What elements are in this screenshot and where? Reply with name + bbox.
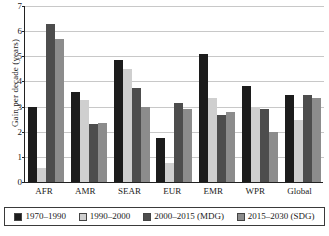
legend-label: 1970–1990 bbox=[25, 212, 66, 221]
bar bbox=[114, 60, 123, 182]
bar bbox=[55, 39, 64, 182]
bar-group-wpr bbox=[242, 6, 278, 182]
bar bbox=[37, 168, 46, 182]
grouped-bar-chart: Gain per decade (years) 01234567 AFRAMRS… bbox=[0, 0, 329, 236]
bar bbox=[303, 95, 312, 182]
bar bbox=[46, 24, 55, 182]
x-axis-tick-label: SEAR bbox=[118, 185, 141, 199]
x-axis-tick-label: EMR bbox=[204, 185, 224, 199]
bar bbox=[269, 132, 278, 182]
bar-group-emr bbox=[199, 6, 235, 182]
x-axis-tick-label: WPR bbox=[245, 185, 265, 199]
bar-group-eur bbox=[156, 6, 192, 182]
legend-label: 2000–2015 (MDG) bbox=[154, 212, 224, 221]
x-axis-tick-label: EUR bbox=[163, 185, 181, 199]
bar bbox=[165, 163, 174, 182]
bar-group-global bbox=[285, 6, 321, 182]
bar bbox=[183, 109, 192, 182]
bar-groups bbox=[25, 6, 324, 182]
bar bbox=[174, 103, 183, 182]
plot-frame: 01234567 bbox=[24, 6, 323, 183]
bar bbox=[28, 107, 37, 182]
bar bbox=[226, 112, 235, 182]
legend-swatch-icon bbox=[143, 213, 151, 221]
bar bbox=[156, 138, 165, 182]
legend-item[interactable]: 1990–2000 bbox=[79, 212, 131, 221]
legend-label: 2015–2030 (SDG) bbox=[248, 212, 315, 221]
x-axis-tick-label: AFR bbox=[35, 185, 53, 199]
bar bbox=[71, 92, 80, 183]
bar bbox=[80, 100, 89, 182]
legend-item[interactable]: 2015–2030 (SDG) bbox=[237, 212, 315, 221]
x-axis-tick-label: Global bbox=[287, 185, 312, 199]
bar bbox=[132, 88, 141, 182]
bar bbox=[242, 86, 251, 182]
bar bbox=[123, 69, 132, 182]
bar bbox=[141, 107, 150, 182]
bar bbox=[89, 124, 98, 182]
legend-item[interactable]: 2000–2015 (MDG) bbox=[143, 212, 224, 221]
y-axis-tick-mark bbox=[22, 182, 25, 183]
chart-legend: 1970–19901990–20002000–2015 (MDG)2015–20… bbox=[4, 207, 325, 226]
bar bbox=[260, 109, 269, 182]
x-axis-tick-label: AMR bbox=[75, 185, 96, 199]
bar bbox=[98, 123, 107, 182]
bar-group-amr bbox=[71, 6, 107, 182]
legend-swatch-icon bbox=[14, 213, 22, 221]
bar bbox=[285, 95, 294, 182]
bar bbox=[312, 98, 321, 182]
bar bbox=[294, 120, 303, 182]
legend-swatch-icon bbox=[79, 213, 87, 221]
bar-group-sear bbox=[114, 6, 150, 182]
legend-item[interactable]: 1970–1990 bbox=[14, 212, 66, 221]
x-axis-labels: AFRAMRSEAREUREMRWPRGlobal bbox=[24, 185, 323, 199]
bar bbox=[217, 115, 226, 182]
bar-group-afr bbox=[28, 6, 64, 182]
legend-swatch-icon bbox=[237, 213, 245, 221]
bar bbox=[208, 98, 217, 182]
bar bbox=[199, 54, 208, 182]
bar bbox=[251, 107, 260, 182]
legend-label: 1990–2000 bbox=[90, 212, 131, 221]
